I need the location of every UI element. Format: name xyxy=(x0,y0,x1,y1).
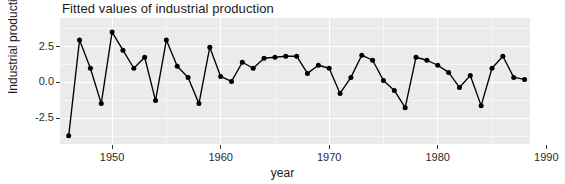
data-point xyxy=(500,54,505,59)
y-axis-tick-mark xyxy=(56,118,60,119)
data-point xyxy=(479,103,484,108)
data-point xyxy=(348,75,353,80)
data-point xyxy=(99,101,104,106)
data-point xyxy=(120,48,125,53)
data-point xyxy=(359,53,364,58)
data-point xyxy=(316,63,321,68)
data-point xyxy=(403,105,408,110)
data-point xyxy=(414,55,419,60)
plot-panel xyxy=(60,18,530,144)
data-point xyxy=(272,55,277,60)
y-axis-tick-label: -2.5 xyxy=(35,111,54,123)
data-point xyxy=(283,54,288,59)
chart-figure: Fitted values of industrial production I… xyxy=(0,0,565,184)
data-point xyxy=(446,70,451,75)
data-point xyxy=(305,71,310,76)
data-point xyxy=(294,54,299,59)
x-axis-tick-label: 1960 xyxy=(191,151,251,163)
data-point xyxy=(522,77,527,82)
y-axis-tick-mark xyxy=(56,46,60,47)
data-point xyxy=(77,38,82,43)
data-point xyxy=(370,58,375,63)
data-point xyxy=(381,78,386,83)
data-point xyxy=(457,85,462,90)
data-point xyxy=(511,75,516,80)
x-axis-tick-mark xyxy=(329,145,330,149)
data-point xyxy=(110,30,115,35)
data-point xyxy=(229,79,234,84)
y-axis-tick-label: 2.5 xyxy=(39,40,54,52)
x-axis-tick-mark xyxy=(220,145,221,149)
data-point xyxy=(131,66,136,71)
data-point xyxy=(338,91,343,96)
data-point xyxy=(207,45,212,50)
data-point xyxy=(218,74,223,79)
series-path xyxy=(69,32,525,136)
y-axis-tick-label: 0.0 xyxy=(39,75,54,87)
data-point xyxy=(251,66,256,71)
data-point xyxy=(240,60,245,65)
x-axis-label: year xyxy=(0,166,565,180)
x-axis-tick-label: 1990 xyxy=(516,151,565,163)
data-point xyxy=(88,66,93,71)
data-point xyxy=(262,56,267,61)
y-axis-tick-mark xyxy=(56,82,60,83)
data-point xyxy=(186,75,191,80)
data-point xyxy=(392,88,397,93)
chart-title: Fitted values of industrial production xyxy=(62,1,274,16)
x-axis-tick-mark xyxy=(546,145,547,149)
data-point xyxy=(164,38,169,43)
data-point xyxy=(175,64,180,69)
data-point xyxy=(66,133,71,138)
x-axis-tick-mark xyxy=(437,145,438,149)
data-series-line xyxy=(60,18,530,144)
x-axis-tick-mark xyxy=(112,145,113,149)
x-axis-tick-label: 1970 xyxy=(299,151,359,163)
data-point xyxy=(196,101,201,106)
data-point xyxy=(142,55,147,60)
data-point xyxy=(490,66,495,71)
data-point xyxy=(153,98,158,103)
data-point xyxy=(435,63,440,68)
data-point xyxy=(327,66,332,71)
x-axis-tick-label: 1980 xyxy=(408,151,468,163)
x-axis-tick-label: 1950 xyxy=(82,151,142,163)
data-point xyxy=(424,58,429,63)
data-point xyxy=(468,73,473,78)
y-axis-label: Industrial production xyxy=(6,0,20,110)
